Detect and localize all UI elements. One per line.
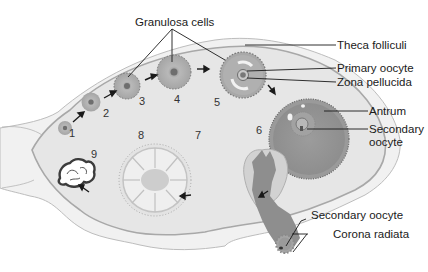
ovary-follicle-diagram: 1 2 3 4 5 6 7 8 9 Granulosa cells Theca … — [0, 0, 428, 272]
label-zona-pellucida: Zona pellucida — [337, 76, 412, 88]
label-primary-oocyte: Primary oocyte — [337, 62, 414, 74]
stage-number-6: 6 — [256, 124, 262, 136]
label-antrum: Antrum — [369, 105, 406, 117]
label-secondary-oocyte-line2: oocyte — [369, 136, 403, 148]
label-corona-radiata: Corona radiata — [333, 228, 410, 240]
follicle-stage-3 — [114, 73, 140, 99]
stage-number-5: 5 — [214, 96, 220, 108]
follicle-stage-5 — [220, 52, 266, 98]
stage-number-9: 9 — [91, 148, 97, 160]
corpus-luteum-stage-8 — [119, 144, 191, 216]
follicle-stage-4 — [157, 55, 191, 89]
stage-number-3: 3 — [139, 95, 145, 107]
stage-number-4: 4 — [174, 93, 180, 105]
stage-number-8: 8 — [138, 129, 144, 141]
stage-number-1: 1 — [69, 127, 75, 139]
label-granulosa-cells: Granulosa cells — [135, 16, 215, 28]
label-theca-folliculi: Theca folliculi — [337, 39, 407, 51]
stage-number-7: 7 — [195, 129, 201, 141]
stage-number-2: 2 — [103, 107, 109, 119]
label-secondary-oocyte-line1: Secondary — [369, 123, 424, 135]
label-ovulated-secondary-oocyte: Secondary oocyte — [311, 209, 403, 221]
follicle-stage-2 — [82, 93, 101, 112]
